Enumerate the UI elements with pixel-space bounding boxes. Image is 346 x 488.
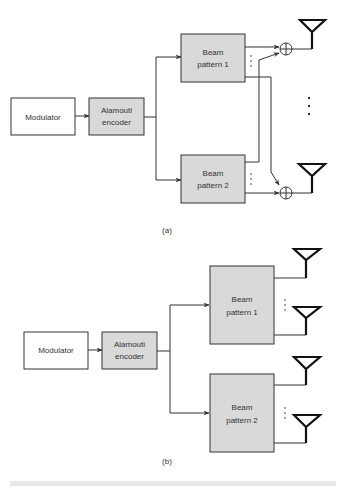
svg-text:Beam: Beam xyxy=(232,403,253,412)
svg-text:Beam: Beam xyxy=(232,295,253,304)
figure-caption-faded xyxy=(10,481,336,486)
antenna-icon xyxy=(294,307,320,335)
modulator-block-a: Modulator xyxy=(11,98,75,135)
ellipsis-dots xyxy=(284,299,286,419)
summer-2-icon xyxy=(280,187,292,199)
svg-text:encoder: encoder xyxy=(115,352,144,361)
beam-pattern-2-block-a: Beam pattern 2 xyxy=(181,155,245,203)
antenna-icon xyxy=(294,249,320,278)
antenna-icon xyxy=(300,20,325,49)
encoder-block-b: Alamouti encoder xyxy=(102,332,157,369)
beam-pattern-1-block-a: Beam pattern 1 xyxy=(181,34,245,82)
modulator-block-b: Modulator xyxy=(24,332,88,369)
encoder-label-1: Alamouti xyxy=(101,106,132,115)
caption-b: (b) xyxy=(162,457,172,466)
svg-text:Beam: Beam xyxy=(203,48,224,57)
antenna-icon xyxy=(294,415,320,443)
antenna-icon xyxy=(294,357,320,385)
encoder-block-a: Alamouti encoder xyxy=(89,98,144,135)
svg-text:Alamouti: Alamouti xyxy=(114,340,145,349)
figure: Modulator Alamouti encoder Beam pattern … xyxy=(0,0,346,488)
diagram-a: Modulator Alamouti encoder Beam pattern … xyxy=(11,20,325,235)
summer-1-icon xyxy=(280,43,292,55)
beam-pattern-1-block-b: Beam pattern 1 xyxy=(210,266,274,344)
svg-text:pattern 1: pattern 1 xyxy=(197,60,229,69)
svg-text:pattern 2: pattern 2 xyxy=(226,416,258,425)
diagram-b: Modulator Alamouti encoder Beam pattern … xyxy=(24,249,320,466)
svg-text:Modulator: Modulator xyxy=(38,346,74,355)
antenna-icon xyxy=(299,164,325,193)
svg-text:pattern 1: pattern 1 xyxy=(226,308,258,317)
caption-a: (a) xyxy=(162,226,172,235)
beam-pattern-2-block-b: Beam pattern 2 xyxy=(210,374,274,452)
svg-text:pattern 2: pattern 2 xyxy=(197,181,229,190)
encoder-label-2: encoder xyxy=(102,118,131,127)
modulator-label: Modulator xyxy=(25,113,61,122)
svg-text:Beam: Beam xyxy=(203,169,224,178)
